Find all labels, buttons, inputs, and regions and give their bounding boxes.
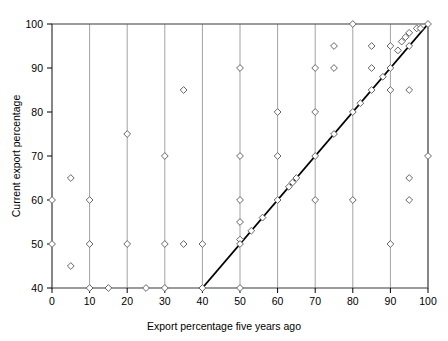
x-axis-title: Export percentage five years ago bbox=[147, 320, 301, 332]
data-point bbox=[312, 197, 319, 204]
y-axis-ticks bbox=[47, 24, 52, 288]
x-tick-label-30: 30 bbox=[159, 295, 171, 307]
data-point bbox=[86, 285, 93, 292]
data-point bbox=[86, 197, 93, 204]
data-point bbox=[274, 109, 281, 116]
data-point bbox=[406, 197, 413, 204]
data-point bbox=[105, 285, 112, 292]
y-tick-label-50: 50 bbox=[31, 238, 43, 250]
data-point bbox=[237, 219, 244, 226]
x-tick-label-20: 20 bbox=[121, 295, 133, 307]
data-point bbox=[395, 47, 402, 54]
data-point bbox=[143, 285, 150, 292]
data-point bbox=[312, 109, 319, 116]
y-axis-title: Current export percentage bbox=[10, 95, 22, 218]
data-point bbox=[49, 241, 56, 248]
data-point bbox=[387, 43, 394, 50]
data-point bbox=[349, 197, 356, 204]
x-tick-label-70: 70 bbox=[309, 295, 321, 307]
y-tick-label-100: 100 bbox=[25, 18, 43, 30]
x-tick-label-90: 90 bbox=[385, 295, 397, 307]
data-point bbox=[274, 153, 281, 160]
data-point bbox=[425, 153, 432, 160]
x-axis-tick-labels: 0102030405060708090100 bbox=[49, 295, 437, 307]
data-point bbox=[312, 65, 319, 72]
data-point bbox=[67, 263, 74, 270]
data-point bbox=[49, 197, 56, 204]
data-point bbox=[180, 241, 187, 248]
data-point bbox=[387, 87, 394, 94]
data-point bbox=[86, 241, 93, 248]
data-point bbox=[349, 21, 356, 28]
scatter-plot-figure: 0102030405060708090100 405060708090100 E… bbox=[0, 0, 448, 341]
data-point bbox=[199, 241, 206, 248]
plot-canvas: 0102030405060708090100 405060708090100 E… bbox=[0, 0, 448, 341]
data-point bbox=[331, 43, 338, 50]
data-point bbox=[180, 87, 187, 94]
x-tick-label-60: 60 bbox=[272, 295, 284, 307]
data-point bbox=[124, 131, 131, 138]
x-tick-label-80: 80 bbox=[347, 295, 359, 307]
x-tick-label-40: 40 bbox=[197, 295, 209, 307]
y-tick-label-60: 60 bbox=[31, 194, 43, 206]
x-tick-label-0: 0 bbox=[49, 295, 55, 307]
x-tick-label-50: 50 bbox=[234, 295, 246, 307]
x-tick-label-100: 100 bbox=[419, 295, 437, 307]
data-point bbox=[237, 65, 244, 72]
data-point bbox=[161, 285, 168, 292]
y-axis-tick-labels: 405060708090100 bbox=[25, 18, 43, 294]
data-point bbox=[331, 65, 338, 72]
y-tick-label-90: 90 bbox=[31, 62, 43, 74]
y-tick-label-40: 40 bbox=[31, 282, 43, 294]
data-point bbox=[67, 175, 74, 182]
data-point bbox=[368, 43, 375, 50]
data-point bbox=[124, 241, 131, 248]
data-point bbox=[237, 197, 244, 204]
data-point bbox=[237, 285, 244, 292]
x-tick-label-10: 10 bbox=[84, 295, 96, 307]
data-point bbox=[237, 153, 244, 160]
data-point bbox=[368, 65, 375, 72]
data-point bbox=[406, 175, 413, 182]
y-tick-label-70: 70 bbox=[31, 150, 43, 162]
y-tick-label-80: 80 bbox=[31, 106, 43, 118]
data-point bbox=[387, 241, 394, 248]
data-point bbox=[406, 87, 413, 94]
data-point bbox=[161, 153, 168, 160]
data-point bbox=[161, 241, 168, 248]
